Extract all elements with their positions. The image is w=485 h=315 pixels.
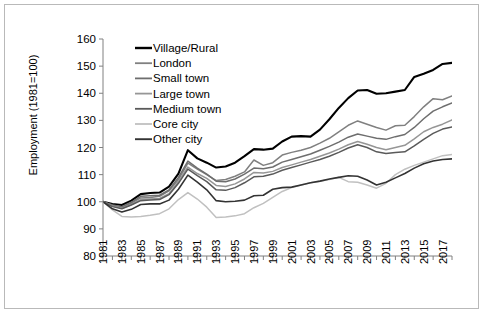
y-tick-label: 110 bbox=[78, 169, 96, 181]
y-tick-label: 90 bbox=[83, 223, 96, 235]
chart-frame: Employment (1981=100) Village/RuralLondo… bbox=[4, 4, 479, 309]
y-tick-label: 160 bbox=[77, 33, 96, 45]
y-tick-label: 140 bbox=[77, 87, 96, 99]
legend-label: Small town bbox=[153, 72, 209, 84]
series-line-other-city bbox=[103, 159, 452, 212]
y-tick-label: 100 bbox=[77, 196, 96, 208]
plot-area: Village/RuralLondonSmall townLarge townM… bbox=[103, 39, 452, 256]
legend-label: Village/Rural bbox=[153, 42, 218, 54]
y-tick-label: 120 bbox=[77, 142, 96, 154]
chart-svg: Village/RuralLondonSmall townLarge townM… bbox=[103, 39, 452, 256]
legend: Village/RuralLondonSmall townLarge townM… bbox=[135, 42, 221, 145]
y-axis-label: Employment (1981=100) bbox=[27, 25, 39, 205]
y-tick-label: 80 bbox=[83, 250, 96, 262]
y-tick-label: 130 bbox=[77, 114, 96, 126]
legend-label: Core city bbox=[153, 118, 199, 130]
legend-label: Other city bbox=[153, 133, 202, 145]
legend-label: Large town bbox=[153, 88, 210, 100]
legend-label: London bbox=[153, 57, 191, 69]
legend-label: Medium town bbox=[153, 103, 221, 115]
y-tick-label: 150 bbox=[77, 60, 96, 72]
